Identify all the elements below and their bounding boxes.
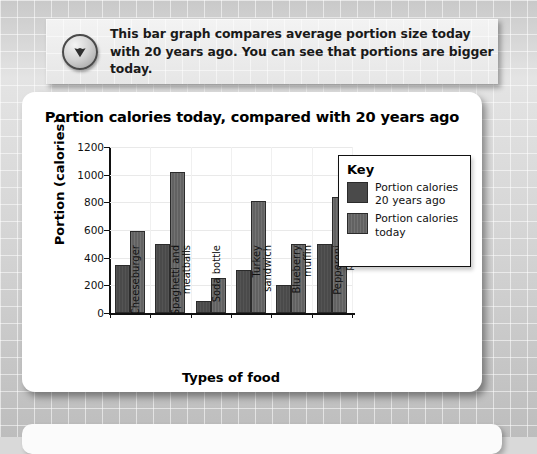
gridline-vertical [150, 147, 151, 313]
chart-title: Portion calories today, compared with 20… [22, 108, 482, 125]
bar-old [155, 244, 170, 313]
gridline-vertical [231, 147, 232, 313]
x-tick-mark [312, 313, 313, 318]
x-tick-label: Soda bottle [211, 245, 222, 319]
x-tick-mark [271, 313, 272, 318]
plot-area: CheeseburgerSpaghetti and meatballsSoda … [110, 147, 352, 313]
y-tick-label: 0 [48, 307, 104, 319]
bar-old [276, 285, 291, 313]
x-axis-line [109, 313, 355, 315]
next-card-peek [22, 424, 502, 454]
x-tick-label: Spaghetti and meatballs [170, 245, 192, 319]
y-tick-label: 600 [48, 224, 104, 236]
legend-title: Key [347, 162, 463, 177]
x-tick-mark [191, 313, 192, 318]
x-tick-mark [352, 313, 353, 318]
chevron-down-circle-icon [62, 34, 98, 70]
legend-label-today: Portion calories today [375, 212, 463, 238]
y-tick-label: 1000 [48, 169, 104, 181]
x-tick-label: Cheeseburger [130, 245, 141, 319]
x-tick-label: Turkey sandwich [251, 245, 273, 319]
info-banner: This bar graph compares average portion … [46, 18, 498, 84]
banner-text: This bar graph compares average portion … [110, 25, 498, 79]
legend-swatch-old [347, 182, 368, 203]
bar-old [317, 244, 332, 313]
bar-old [236, 270, 251, 313]
x-tick-label: Blueberry muffin [291, 245, 313, 319]
x-tick-mark [150, 313, 151, 318]
y-tick-label: 400 [48, 252, 104, 264]
legend-item: Portion calories today [347, 212, 463, 238]
x-tick-mark [231, 313, 232, 318]
legend-label-old: Portion calories 20 years ago [375, 181, 463, 207]
y-tick-label: 200 [48, 279, 104, 291]
bar-old [196, 301, 211, 313]
y-tick-label: 1200 [48, 141, 104, 153]
chart-legend: Key Portion calories 20 years ago Portio… [338, 155, 471, 267]
chart-card: Portion calories today, compared with 20… [22, 92, 482, 392]
legend-swatch-today [347, 213, 368, 234]
y-tick-label: 800 [48, 196, 104, 208]
x-axis-label: Types of food [110, 370, 352, 385]
x-tick-mark [110, 313, 111, 318]
bar-old [115, 265, 130, 313]
legend-item: Portion calories 20 years ago [347, 181, 463, 207]
y-axis-tick-labels: 020040060080010001200 [46, 140, 104, 320]
